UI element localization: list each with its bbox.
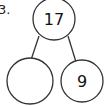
- number-bond-diagram: 17 9: [0, 0, 108, 106]
- connector-left: [31, 36, 39, 60]
- whole-value: 17: [44, 10, 64, 29]
- part-left-circle[interactable]: [7, 58, 53, 104]
- part-right-value: 9: [77, 72, 87, 91]
- connector-right: [68, 36, 76, 62]
